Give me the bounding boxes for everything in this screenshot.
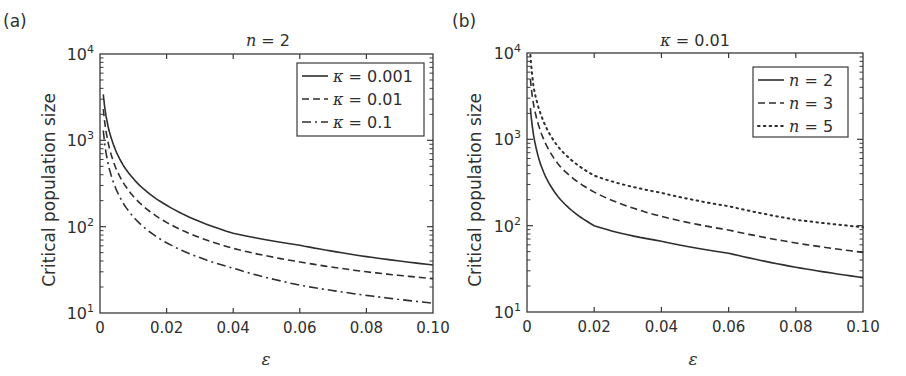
x-tick-label: 0.02	[150, 319, 183, 337]
x-tick-label: 0.08	[350, 319, 383, 337]
panel-a: (a) n = 2 Critical population size ε 00.…	[3, 11, 450, 369]
y-tick-label: 103	[67, 129, 94, 150]
y-tick-label: 102	[494, 215, 521, 236]
x-axis-label: ε	[261, 349, 270, 369]
panel-label: (b)	[452, 11, 476, 31]
x-tick-label: 0.04	[645, 318, 678, 336]
x-tick-label: 0.10	[846, 318, 879, 336]
legend-label: n = 5	[789, 117, 833, 136]
x-tick-label: 0.04	[216, 319, 249, 337]
curve-dashdot	[103, 131, 433, 304]
y-axis-label: Critical population size	[39, 93, 59, 287]
panel-title: n = 2	[246, 31, 290, 50]
x-tick-label: 0.02	[577, 318, 610, 336]
x-axis-label: ε	[688, 349, 697, 369]
x-tick-label: 0	[95, 319, 105, 337]
panel-label: (a)	[3, 11, 27, 31]
panel-b: (b) κ = 0.01 Critical population size ε …	[452, 11, 880, 369]
legend-label: n = 3	[789, 94, 833, 113]
y-tick-label: 104	[494, 42, 521, 63]
x-tick-label: 0.08	[779, 318, 812, 336]
x-tick-label: 0.06	[712, 318, 745, 336]
legend-label: n = 2	[789, 71, 833, 90]
y-axis-label: Critical population size	[465, 93, 485, 287]
y-tick-label: 102	[67, 216, 94, 237]
panel-title: κ = 0.01	[659, 31, 730, 50]
x-tick-label: 0.06	[283, 319, 316, 337]
y-tick-label: 104	[67, 43, 94, 64]
figure: (a) n = 2 Critical population size ε 00.…	[0, 0, 906, 376]
legend: n = 2n = 3n = 5	[753, 67, 848, 137]
x-tick-label: 0	[522, 318, 532, 336]
legend: κ = 0.001κ = 0.01κ = 0.1	[297, 63, 424, 136]
y-tick-label: 101	[67, 302, 94, 323]
y-tick-label: 103	[494, 128, 521, 149]
y-tick-label: 101	[494, 301, 521, 322]
legend-label: κ = 0.001	[332, 67, 413, 86]
legend-label: κ = 0.01	[332, 90, 403, 109]
legend-label: κ = 0.1	[332, 113, 393, 132]
x-tick-label: 0.10	[416, 319, 449, 337]
